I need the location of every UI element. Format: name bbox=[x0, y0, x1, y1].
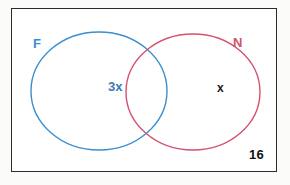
set-n-ellipse bbox=[126, 34, 260, 150]
venn-diagram-figure: F N 3x x 16 bbox=[0, 0, 290, 185]
set-label-f: F bbox=[33, 37, 41, 50]
region-label-intersection: 3x bbox=[108, 80, 122, 93]
set-label-n: N bbox=[233, 36, 242, 49]
venn-circles-group bbox=[0, 0, 290, 185]
region-label-n-only: x bbox=[217, 82, 224, 94]
region-label-outside: 16 bbox=[249, 148, 264, 161]
